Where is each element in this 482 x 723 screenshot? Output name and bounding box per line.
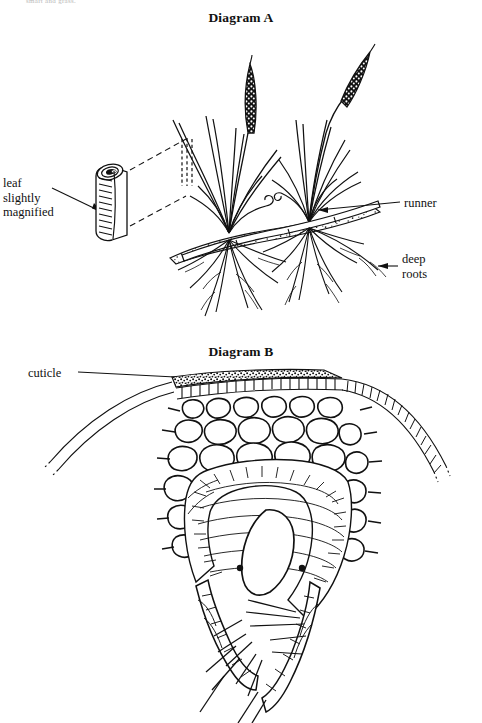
magnification-connector-lines: [130, 139, 186, 226]
magnified-rolled-leaf: [96, 162, 127, 241]
leader-leaf-magnified: [52, 188, 102, 212]
leaf-cavity: [242, 510, 294, 595]
root-system: [178, 228, 386, 316]
grass-plant-left: [173, 55, 281, 233]
stoma-left: [237, 565, 243, 571]
stoma-right: [299, 565, 305, 571]
figure-artwork: [0, 0, 482, 723]
grass-plant-right: [272, 44, 375, 222]
diagram-a-artwork: [52, 44, 400, 316]
figure-page: smart and grass. Diagram A Diagram B lea…: [0, 0, 482, 723]
cuticle-sheet-left: [44, 382, 174, 476]
leader-deep-roots: [378, 263, 398, 269]
diagram-b-artwork: [44, 369, 450, 723]
leaf-section-dashes: [182, 138, 192, 186]
